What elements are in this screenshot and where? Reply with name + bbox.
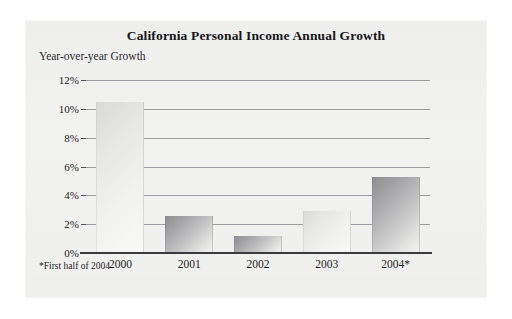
y-axis-tick-label: 6% xyxy=(64,161,79,173)
bar-fill xyxy=(234,236,282,253)
bar-fill xyxy=(303,211,351,253)
y-axis-tick xyxy=(81,195,86,196)
bar-2002[interactable]: 2002 xyxy=(234,236,282,253)
x-axis-tick-label: 2003 xyxy=(303,258,351,270)
chart-title: California Personal Income Annual Growth xyxy=(25,28,487,44)
y-axis-tick xyxy=(81,80,86,81)
bar-fill xyxy=(165,216,213,253)
chart-footnote: *First half of 2004 xyxy=(39,261,110,271)
y-axis-tick xyxy=(81,109,86,110)
y-axis-tick xyxy=(81,224,86,225)
bar-2004star[interactable]: 2004* xyxy=(372,177,420,253)
y-axis-tick xyxy=(81,138,86,139)
x-axis-line xyxy=(80,252,432,254)
bar-2001[interactable]: 2001 xyxy=(165,216,213,253)
bar-2003[interactable]: 2003 xyxy=(303,211,351,253)
y-axis-tick-label: 12% xyxy=(59,74,79,86)
bar-fill xyxy=(372,177,420,253)
chart-subtitle: Year-over-year Growth xyxy=(39,50,146,62)
bar-fill xyxy=(96,102,144,253)
x-axis-tick-label: 2002 xyxy=(234,258,282,270)
y-axis-tick-label: 10% xyxy=(59,103,79,115)
y-axis-tick-label: 0% xyxy=(64,247,79,259)
x-axis-tick-label: 2001 xyxy=(165,258,213,270)
y-axis-tick xyxy=(81,167,86,168)
screenshot-root: California Personal Income Annual Growth… xyxy=(0,0,512,319)
bar-2000[interactable]: 2000 xyxy=(96,102,144,253)
gridline xyxy=(86,80,430,81)
plot-area: 0%2%4%6%8%10%12% 20002001200220032004* xyxy=(86,80,430,253)
chart-panel: California Personal Income Annual Growth… xyxy=(25,20,487,298)
y-axis-tick-label: 8% xyxy=(64,132,79,144)
x-axis-tick-label: 2004* xyxy=(372,258,420,270)
y-axis-tick-label: 2% xyxy=(64,218,79,230)
y-axis-tick-label: 4% xyxy=(64,189,79,201)
